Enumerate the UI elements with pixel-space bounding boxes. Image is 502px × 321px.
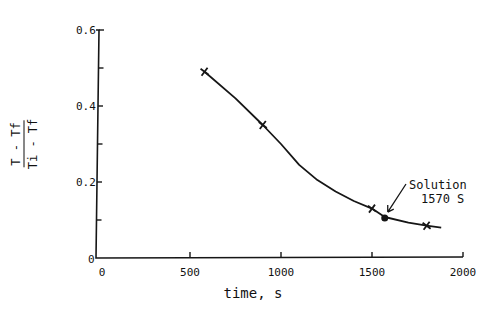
y-tick-label: 0: [88, 253, 95, 266]
x-tick-label: 2000: [450, 266, 477, 279]
fitted-curve: [205, 72, 442, 228]
data-point-marker: [259, 121, 267, 129]
annotation-solution-label: Solution: [409, 178, 467, 192]
x-tick-label: 500: [180, 266, 200, 279]
y-label-denominator: Ti - Tf: [25, 117, 40, 172]
y-label-numerator: T - Tf: [9, 120, 25, 167]
axes-lines: [96, 30, 463, 258]
x-tick-label: 1500: [359, 266, 386, 279]
y-tick-label: 0.6: [76, 24, 96, 37]
y-tick-label: 0.2: [76, 176, 96, 189]
data-point-marker: [201, 68, 209, 76]
x-tick-label: 0: [99, 266, 106, 279]
annotation-arrow: [388, 184, 406, 212]
y-tick-label: 0.4: [76, 100, 96, 113]
annotation-solution-value: 1570 S: [421, 192, 464, 206]
x-axis-label: time, s: [223, 285, 282, 301]
chart: 00.20.40.60500100015002000time, sSolutio…: [0, 0, 502, 321]
y-axis-label: T - Tf Ti - Tf: [3, 116, 45, 172]
data-point-marker: [368, 205, 376, 213]
solution-point: [381, 215, 388, 222]
x-tick-label: 1000: [268, 266, 295, 279]
